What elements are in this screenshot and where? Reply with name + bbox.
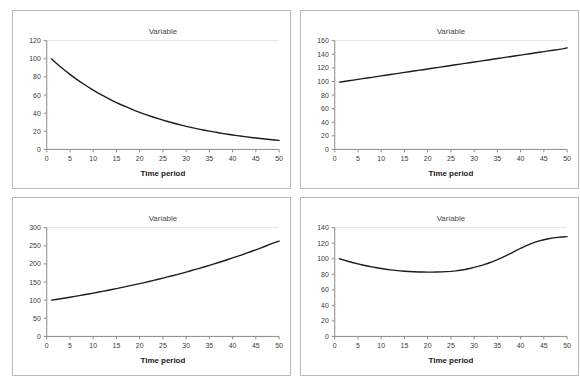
x-tick-label: 15: [401, 342, 409, 349]
x-axis-title: Time period: [141, 356, 186, 365]
x-tick-label: 40: [517, 342, 525, 349]
x-tick-label: 40: [517, 155, 525, 162]
x-tick-label: 45: [252, 155, 260, 162]
y-tick-label: 40: [321, 302, 329, 309]
y-tick-label: 20: [321, 317, 329, 324]
x-tick-label: 15: [113, 342, 121, 349]
x-tick-label: 10: [89, 155, 97, 162]
x-tick-label: 50: [275, 342, 283, 349]
y-tick-label: 100: [29, 55, 41, 62]
x-tick-label: 25: [447, 155, 455, 162]
x-tick-label: 5: [356, 342, 360, 349]
y-tick-label: 100: [29, 297, 41, 304]
x-tick-label: 25: [447, 342, 455, 349]
chart-svg-top-left: Variable02040608010012005101520253035404…: [13, 11, 290, 188]
y-tick-label: 120: [317, 64, 329, 71]
x-tick-label: 0: [45, 155, 49, 162]
x-tick-label: 15: [113, 155, 121, 162]
x-axis-title: Time period: [141, 169, 186, 178]
x-tick-label: 35: [206, 342, 214, 349]
x-tick-label: 0: [333, 155, 337, 162]
x-tick-label: 35: [494, 342, 502, 349]
chart-title: Variable: [149, 27, 178, 36]
x-tick-label: 0: [45, 342, 49, 349]
x-tick-label: 5: [356, 155, 360, 162]
panel-background: [13, 198, 290, 375]
x-tick-label: 20: [424, 342, 432, 349]
chart-title: Variable: [437, 214, 466, 223]
x-tick-label: 20: [424, 155, 432, 162]
x-tick-label: 0: [333, 342, 337, 349]
chart-svg-bottom-left: Variable05010015020025030005101520253035…: [13, 198, 290, 375]
x-tick-label: 25: [159, 342, 167, 349]
chart-panel-bottom-right: Variable02040608010012014005101520253035…: [300, 197, 579, 376]
y-tick-label: 60: [33, 92, 41, 99]
x-tick-label: 20: [136, 155, 144, 162]
y-tick-label: 20: [321, 132, 329, 139]
chart-title: Variable: [437, 27, 466, 36]
y-tick-label: 150: [29, 279, 41, 286]
x-tick-label: 10: [377, 155, 385, 162]
chart-svg-bottom-right: Variable02040608010012014005101520253035…: [301, 198, 578, 375]
chart-panel-top-left: Variable02040608010012005101520253035404…: [12, 10, 291, 189]
y-tick-label: 60: [321, 105, 329, 112]
y-tick-label: 80: [321, 92, 329, 99]
x-tick-label: 30: [470, 155, 478, 162]
chart-svg-top-right: Variable02040608010012014016005101520253…: [301, 11, 578, 188]
x-tick-label: 35: [494, 155, 502, 162]
x-tick-label: 50: [275, 155, 283, 162]
x-tick-label: 10: [89, 342, 97, 349]
x-tick-label: 40: [229, 155, 237, 162]
chart-panel-top-right: Variable02040608010012014016005101520253…: [300, 10, 579, 189]
x-tick-label: 35: [206, 155, 214, 162]
y-tick-label: 300: [29, 224, 41, 231]
y-tick-label: 250: [29, 242, 41, 249]
x-tick-label: 5: [68, 155, 72, 162]
x-tick-label: 30: [470, 342, 478, 349]
x-tick-label: 25: [159, 155, 167, 162]
x-axis-title: Time period: [429, 356, 474, 365]
x-axis-title: Time period: [429, 169, 474, 178]
panel-background: [13, 11, 290, 188]
x-tick-label: 30: [182, 155, 190, 162]
x-tick-label: 45: [540, 342, 548, 349]
panel-background: [301, 11, 578, 188]
panel-background: [301, 198, 578, 375]
x-tick-label: 15: [401, 155, 409, 162]
y-tick-label: 20: [33, 128, 41, 135]
y-tick-label: 140: [317, 224, 329, 231]
x-tick-label: 30: [182, 342, 190, 349]
y-tick-label: 0: [37, 333, 41, 340]
y-tick-label: 60: [321, 286, 329, 293]
y-tick-label: 0: [325, 146, 329, 153]
chart-panel-grid: Variable02040608010012005101520253035404…: [0, 0, 580, 379]
y-tick-label: 0: [37, 146, 41, 153]
x-tick-label: 20: [136, 342, 144, 349]
y-tick-label: 100: [317, 78, 329, 85]
y-tick-label: 100: [317, 255, 329, 262]
x-tick-label: 10: [377, 342, 385, 349]
y-tick-label: 200: [29, 261, 41, 268]
x-tick-label: 5: [68, 342, 72, 349]
y-tick-label: 40: [33, 110, 41, 117]
y-tick-label: 120: [317, 240, 329, 247]
y-tick-label: 0: [325, 333, 329, 340]
y-tick-label: 40: [321, 119, 329, 126]
x-tick-label: 50: [563, 342, 571, 349]
chart-panel-bottom-left: Variable05010015020025030005101520253035…: [12, 197, 291, 376]
x-tick-label: 50: [563, 155, 571, 162]
x-tick-label: 40: [229, 342, 237, 349]
y-tick-label: 120: [29, 37, 41, 44]
y-tick-label: 80: [321, 271, 329, 278]
y-tick-label: 50: [33, 315, 41, 322]
chart-title: Variable: [149, 214, 178, 223]
y-tick-label: 140: [317, 51, 329, 58]
y-tick-label: 80: [33, 74, 41, 81]
x-tick-label: 45: [540, 155, 548, 162]
x-tick-label: 45: [252, 342, 260, 349]
y-tick-label: 160: [317, 37, 329, 44]
